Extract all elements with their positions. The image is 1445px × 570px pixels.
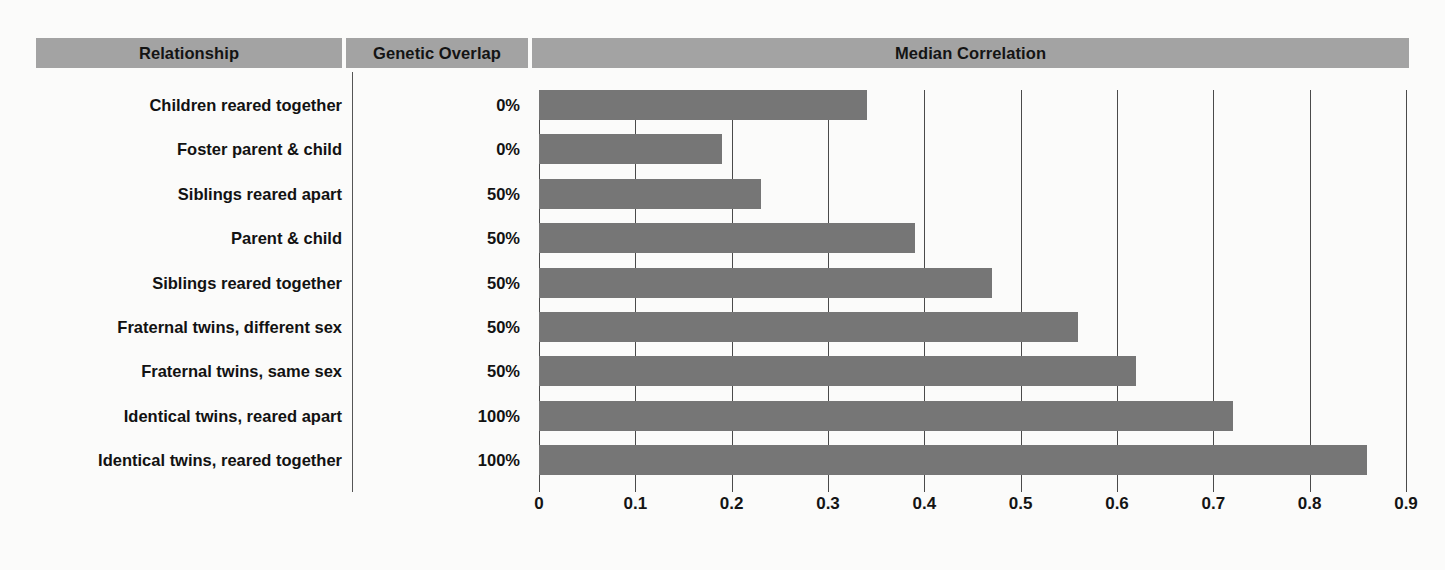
row-label: Fraternal twins, different sex [36,312,342,356]
x-axis-tick-label: 0.9 [1394,494,1418,514]
gridline [1406,90,1407,492]
genetic-overlap-value: 50% [360,312,520,356]
row-label: Foster parent & child [36,134,342,178]
row-label: Identical twins, reared together [36,445,342,489]
x-axis-tick-label: 0.7 [1202,494,1226,514]
bar-row [539,134,1406,164]
row-label: Siblings reared together [36,268,342,312]
column-divider [352,72,353,492]
bar [539,179,761,209]
bar-row [539,445,1406,475]
genetic-overlap-value: 0% [360,134,520,178]
row-label: Siblings reared apart [36,179,342,223]
bar-chart-plot-area [539,90,1406,492]
genetic-overlap-column: 0% 0% 50% 50% 50% 50% 50% 100% 100% [360,90,520,490]
x-axis-tick-label: 0.1 [624,494,648,514]
genetic-overlap-correlation-table-chart: Relationship Genetic Overlap Median Corr… [0,0,1445,570]
column-header-genetic-overlap: Genetic Overlap [346,38,528,68]
bar-row [539,401,1406,431]
x-axis-tick-label: 0.3 [816,494,840,514]
relationship-column: Children reared together Foster parent &… [36,90,342,490]
bar-row [539,268,1406,298]
bar [539,445,1367,475]
genetic-overlap-value: 100% [360,401,520,445]
x-axis-tick-label: 0.6 [1105,494,1129,514]
genetic-overlap-value: 0% [360,90,520,134]
x-axis-tick-label: 0.4 [913,494,937,514]
bar [539,134,722,164]
bar-row [539,356,1406,386]
header-band-genetic-overlap: Genetic Overlap [346,38,528,68]
header-band-relationship: Relationship [36,38,342,68]
genetic-overlap-value: 50% [360,223,520,267]
bar-row [539,90,1406,120]
genetic-overlap-value: 50% [360,356,520,400]
row-label: Fraternal twins, same sex [36,356,342,400]
bar [539,268,992,298]
bar-row [539,179,1406,209]
bar [539,90,867,120]
genetic-overlap-value: 50% [360,179,520,223]
row-label: Children reared together [36,90,342,134]
x-axis-tick-labels: 00.10.20.30.40.50.60.70.80.9 [539,494,1406,520]
x-axis-tick-label: 0.8 [1298,494,1322,514]
column-header-relationship: Relationship [36,38,342,68]
row-label: Parent & child [36,223,342,267]
x-axis-tick-label: 0.5 [1009,494,1033,514]
bar [539,401,1233,431]
genetic-overlap-value: 50% [360,268,520,312]
header-band-median-correlation: Median Correlation [532,38,1409,68]
x-axis-tick-label: 0 [534,494,543,514]
x-axis-tick-label: 0.2 [720,494,744,514]
bar [539,223,915,253]
row-label: Identical twins, reared apart [36,401,342,445]
bar-row [539,223,1406,253]
bar [539,312,1078,342]
genetic-overlap-value: 100% [360,445,520,489]
bar-row [539,312,1406,342]
bar [539,356,1136,386]
column-header-median-correlation: Median Correlation [532,38,1409,68]
